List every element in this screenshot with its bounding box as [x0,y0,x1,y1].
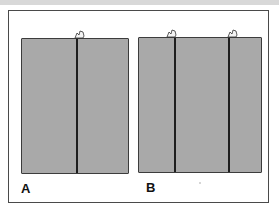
panel-b-divider-2[interactable] [228,38,230,172]
scan-speck [199,182,201,184]
panel-a-divider[interactable] [76,39,78,173]
hand-pointer-icon [74,30,85,39]
hand-pointer-icon [166,29,177,38]
panel-a [21,38,129,174]
panel-a-label: A [21,182,30,195]
panel-b-label: B [146,181,155,194]
top-strip [0,0,279,5]
panel-b [138,37,262,173]
panel-b-divider-1[interactable] [174,38,176,172]
hand-pointer-icon [227,29,238,38]
